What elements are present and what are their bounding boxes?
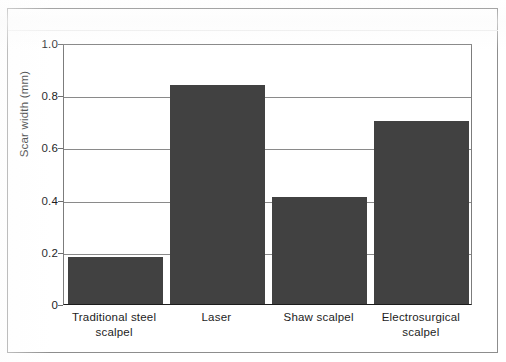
y-axis-tick-mark (58, 201, 63, 202)
bars-layer (64, 45, 471, 304)
x-axis-category-label: Electrosurgicalscalpel (358, 310, 484, 340)
y-axis-tick-mark (58, 96, 63, 97)
bar (170, 85, 265, 304)
y-axis-tick-mark (58, 253, 63, 254)
x-axis-label-line: Electrosurgical (358, 310, 484, 325)
plot-area (63, 44, 472, 305)
y-axis-tick-mark (58, 44, 63, 45)
y-axis-tick-marks (0, 44, 70, 305)
y-axis-tick-mark (58, 305, 63, 306)
bar (68, 257, 163, 304)
x-axis-label-line: scalpel (358, 325, 484, 340)
bar (272, 197, 367, 304)
x-axis-category-labels: Traditional steelscalpelLaserShaw scalpe… (63, 310, 472, 354)
y-axis-tick-mark (58, 148, 63, 149)
figure-root: Scar width (mm) 00.20.40.60.81.0 Traditi… (0, 0, 506, 362)
bar (374, 121, 469, 304)
x-axis-label-line: scalpel (51, 325, 177, 340)
